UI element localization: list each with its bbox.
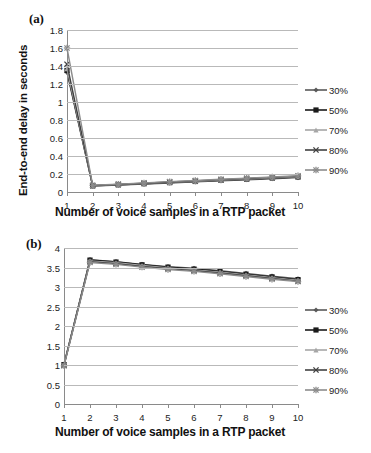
x-tick-mark: [298, 192, 299, 196]
legend-label: 70%: [329, 125, 348, 136]
data-point-marker-star: [243, 175, 249, 181]
legend-item-50pct[interactable]: 50%: [305, 320, 348, 340]
panel-label-b: (b): [26, 236, 41, 252]
legend-item-80pct[interactable]: 80%: [305, 140, 348, 160]
x-tick-mark: [221, 192, 222, 196]
y-tick-label: 1.6: [50, 43, 63, 54]
data-point-marker-star: [141, 180, 147, 186]
gridline: [64, 385, 298, 386]
series-line-90pct: [67, 48, 298, 185]
x-tick-label: 8: [244, 200, 249, 211]
series-line-80pct: [64, 262, 298, 366]
series-line-70pct: [67, 69, 298, 186]
legend-label: 30%: [329, 305, 348, 316]
series-line-50pct: [67, 71, 298, 186]
x-tick-label: 6: [191, 412, 196, 423]
x-tick-mark: [170, 192, 171, 196]
x-tick-mark: [298, 404, 299, 408]
y-tick-label: 1.8: [50, 25, 63, 36]
legend-label: 30%: [329, 85, 348, 96]
panel-label-a: (a): [29, 11, 44, 27]
x-tick-label: 10: [293, 200, 304, 211]
gridline: [67, 48, 298, 49]
legend-item-80pct[interactable]: 80%: [305, 360, 348, 380]
chart-panel-a: (a) End-to-end delay in seconds Number o…: [0, 0, 371, 228]
x-tick-label: 1: [64, 200, 69, 211]
figure-container: (a) End-to-end delay in seconds Number o…: [0, 0, 371, 453]
y-tick-label: 1.5: [47, 340, 60, 351]
data-point-marker-star: [217, 271, 223, 277]
series-line-30pct: [67, 72, 298, 186]
gridline: [64, 365, 298, 366]
y-tick-label: 4: [55, 243, 60, 254]
y-tick-label: 0.5: [47, 379, 60, 390]
x-tick-mark: [194, 404, 195, 408]
legend-marker-icon: [305, 344, 327, 356]
x-axis-title-b: Number of voice samples in a RTP packet: [45, 425, 295, 439]
legend-item-90pct[interactable]: 90%: [305, 160, 348, 180]
x-tick-mark: [168, 404, 169, 408]
y-tick-label: 2.5: [47, 301, 60, 312]
legend-b: 30%50%70%80%90%: [305, 300, 348, 400]
legend-marker-icon: [305, 144, 327, 156]
plot-area-b: 00.511.522.533.54 12345678910: [64, 248, 298, 404]
data-point-marker-star: [313, 387, 319, 393]
gridline: [67, 84, 298, 85]
x-tick-mark: [116, 404, 117, 408]
x-tick-label: 4: [139, 412, 144, 423]
series-line-90pct: [64, 262, 298, 365]
x-tick-mark: [93, 192, 94, 196]
data-point-marker-diamond: [313, 87, 318, 92]
legend-marker-icon: [305, 164, 327, 176]
data-point-marker-star: [218, 176, 224, 182]
legend-marker-icon: [305, 304, 327, 316]
legend-label: 50%: [329, 325, 348, 336]
legend-marker-icon: [305, 364, 327, 376]
y-tick-label: 1.4: [50, 61, 63, 72]
gridline: [64, 346, 298, 347]
y-tick-label: 0: [58, 187, 63, 198]
gridline: [67, 30, 298, 31]
legend-a: 30%50%70%80%90%: [305, 80, 348, 180]
data-point-marker-star: [295, 278, 301, 284]
legend-label: 80%: [329, 365, 348, 376]
x-tick-mark: [144, 192, 145, 196]
x-tick-mark: [142, 404, 143, 408]
x-axis-line-b: [64, 404, 298, 405]
gridline: [67, 102, 298, 103]
legend-item-30pct[interactable]: 30%: [305, 300, 348, 320]
legend-item-50pct[interactable]: 50%: [305, 100, 348, 120]
series-line-70pct: [64, 261, 298, 365]
gridline: [64, 248, 298, 249]
x-tick-label: 6: [193, 200, 198, 211]
data-point-marker-square: [313, 327, 318, 332]
legend-item-70pct[interactable]: 70%: [305, 120, 348, 140]
y-axis-title-a: End-to-end delay in seconds: [17, 45, 29, 196]
y-tick-label: 1.2: [50, 79, 63, 90]
x-axis-line-a: [67, 192, 298, 193]
data-point-marker-star: [269, 276, 275, 282]
y-tick-label: 3: [55, 282, 60, 293]
x-tick-mark: [247, 192, 248, 196]
x-tick-label: 10: [293, 412, 304, 423]
data-point-marker-star: [89, 182, 95, 188]
legend-marker-icon: [305, 104, 327, 116]
y-tick-label: 0.8: [50, 115, 63, 126]
y-tick-label: 1: [58, 97, 63, 108]
x-tick-label: 1: [61, 412, 66, 423]
x-tick-label: 7: [217, 412, 222, 423]
gridline: [64, 268, 298, 269]
legend-label: 90%: [329, 165, 348, 176]
legend-item-30pct[interactable]: 30%: [305, 80, 348, 100]
legend-label: 50%: [329, 105, 348, 116]
series-line-80pct: [67, 64, 298, 185]
x-tick-mark: [118, 192, 119, 196]
gridline: [67, 120, 298, 121]
x-tick-label: 5: [165, 412, 170, 423]
gridline: [64, 326, 298, 327]
legend-item-90pct[interactable]: 90%: [305, 380, 348, 400]
legend-item-70pct[interactable]: 70%: [305, 340, 348, 360]
x-tick-mark: [64, 404, 65, 408]
x-tick-label: 9: [269, 412, 274, 423]
gridline: [67, 156, 298, 157]
